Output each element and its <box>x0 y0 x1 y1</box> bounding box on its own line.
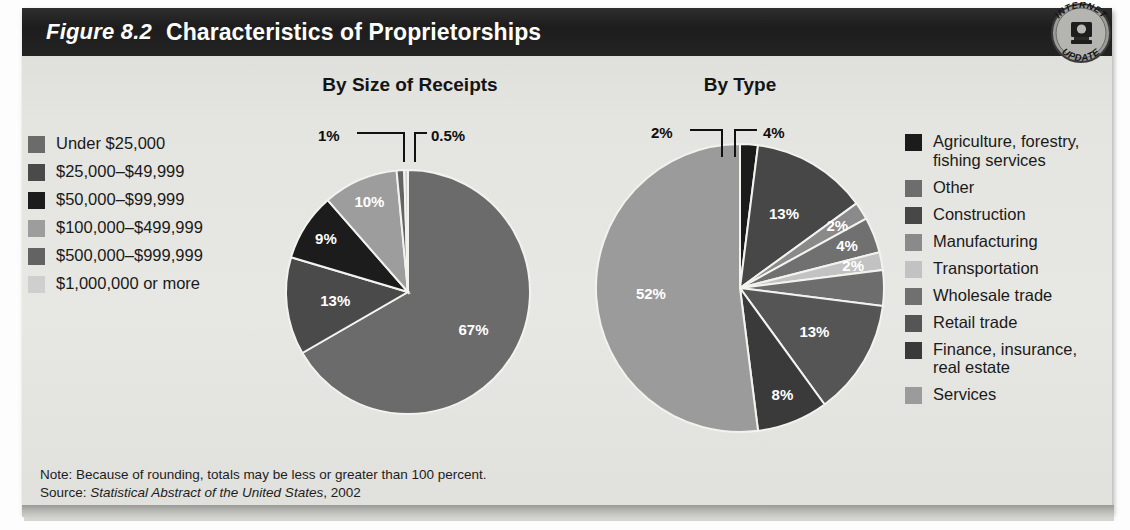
pie-chart-by-size-of-receipts: 67%13%9%10% <box>280 160 545 425</box>
callout-left-1pct: 1% <box>318 127 340 144</box>
note-text: Note: Because of rounding, totals may be… <box>40 466 487 484</box>
pie-slice-label: 10% <box>354 193 384 210</box>
panel-bottom-shadow <box>24 515 1114 521</box>
legend-item: $100,000–$499,999 <box>28 218 243 237</box>
legend-swatch <box>28 220 45 237</box>
figure-title: Characteristics of Proprietorships <box>166 19 541 46</box>
pie-slice-label: 2% <box>842 257 864 274</box>
pie-slice-label: 8% <box>772 386 794 403</box>
legend-item-label: Transportation <box>933 259 1039 278</box>
legend-swatch <box>905 234 922 251</box>
legend-item: Wholesale trade <box>905 286 1125 305</box>
legend-item-label: Under $25,000 <box>56 134 165 153</box>
legend-item-label: Wholesale trade <box>933 286 1052 305</box>
internet-update-badge[interactable]: INTERNET UPDATE <box>1044 2 1118 64</box>
legend-item: $1,000,000 or more <box>28 274 243 293</box>
legend-swatch <box>905 288 922 305</box>
legend-item: $500,000–$999,999 <box>28 246 243 265</box>
legend-swatch <box>905 342 922 359</box>
legend-item-label: Agriculture, forestry, fishing services <box>933 132 1079 170</box>
legend-swatch <box>28 248 45 265</box>
legend-item-label: $1,000,000 or more <box>56 274 200 293</box>
legend-item-label: $100,000–$499,999 <box>56 218 203 237</box>
legend-swatch <box>905 134 922 151</box>
legend-swatch <box>905 387 922 404</box>
legend-item: Construction <box>905 205 1125 224</box>
source-publication: Statistical Abstract of the United State… <box>90 485 323 500</box>
legend-swatch <box>905 261 922 278</box>
legend-swatch <box>28 192 45 209</box>
pie-slice-label: 2% <box>826 217 848 234</box>
legend-swatch <box>905 207 922 224</box>
pie-slice-label: 52% <box>636 285 666 302</box>
legend-item: Services <box>905 385 1125 404</box>
legend-item-label: Finance, insurance, real estate <box>933 340 1077 378</box>
legend-swatch <box>28 136 45 153</box>
legend-item: Agriculture, forestry, fishing services <box>905 132 1125 170</box>
legend-item: $50,000–$99,999 <box>28 190 243 209</box>
computer-monitor-icon <box>1071 22 1092 44</box>
legend-by-size-of-receipts: Under $25,000 $25,000–$49,999 $50,000–$9… <box>28 134 243 302</box>
source-year: , 2002 <box>323 485 361 500</box>
legend-item: Retail trade <box>905 313 1125 332</box>
source-prefix: Source: <box>40 485 90 500</box>
callout-left-half-pct: 0.5% <box>431 127 465 144</box>
figure-number: Figure 8.2 <box>46 19 152 45</box>
legend-item-label: Retail trade <box>933 313 1017 332</box>
chart-title-left: By Size of Receipts <box>290 74 530 96</box>
legend-swatch <box>28 276 45 293</box>
pie-chart-by-type: 13%2%4%2%13%8%52% <box>592 140 887 435</box>
callout-right-4pct: 4% <box>763 124 785 141</box>
legend-item: $25,000–$49,999 <box>28 162 243 181</box>
legend-item-label: Services <box>933 385 996 404</box>
legend-item-label: $25,000–$49,999 <box>56 162 184 181</box>
callout-right-2pct: 2% <box>651 124 673 141</box>
pie-slice-label: 13% <box>769 205 799 222</box>
pie-slice-label: 4% <box>836 237 858 254</box>
pie-slice-label: 13% <box>320 292 350 309</box>
legend-item-label: Manufacturing <box>933 232 1038 251</box>
pie-slice-label: 67% <box>458 321 488 338</box>
legend-item: Other <box>905 178 1125 197</box>
pie-slice-label: 9% <box>315 230 337 247</box>
legend-item: Manufacturing <box>905 232 1125 251</box>
legend-item: Transportation <box>905 259 1125 278</box>
legend-item-label: $500,000–$999,999 <box>56 246 203 265</box>
legend-swatch <box>28 164 45 181</box>
pie-slice-label: 13% <box>799 323 829 340</box>
legend-item-label: $50,000–$99,999 <box>56 190 184 209</box>
legend-by-type: Agriculture, forestry, fishing services … <box>905 132 1125 412</box>
legend-swatch <box>905 180 922 197</box>
chart-title-right: By Type <box>640 74 840 96</box>
figure-root: Figure 8.2 Characteristics of Proprietor… <box>0 0 1130 530</box>
source-text: Source: Statistical Abstract of the Unit… <box>40 484 361 502</box>
legend-item-label: Construction <box>933 205 1026 224</box>
figure-titlebar: Figure 8.2 Characteristics of Proprietor… <box>22 8 1112 56</box>
pie-slice <box>596 144 758 432</box>
legend-item: Under $25,000 <box>28 134 243 153</box>
legend-item: Finance, insurance, real estate <box>905 340 1125 378</box>
legend-item-label: Other <box>933 178 974 197</box>
legend-swatch <box>905 315 922 332</box>
